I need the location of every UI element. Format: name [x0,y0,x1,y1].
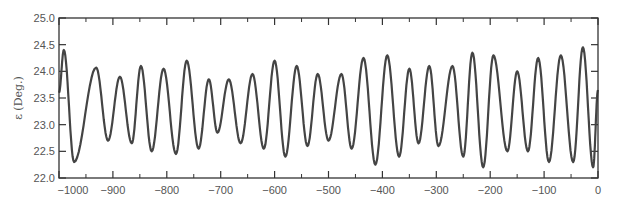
obliquity-curve [59,47,598,167]
y-axis-label: ε (Deg.) [12,76,25,120]
x-tick-label: −400 [370,184,395,196]
obliquity-chart: 22.022.523.023.524.024.525.0 −1000−900−8… [0,0,620,203]
y-tick-label: 24.5 [34,39,55,51]
x-tick-label: −500 [316,184,341,196]
x-tick-label: −700 [208,184,233,196]
x-tick-label: 0 [595,184,601,196]
x-tick-label: −300 [424,184,449,196]
x-tick-label: −200 [478,184,503,196]
x-tick-label: −800 [154,184,179,196]
plot-frame [59,18,598,178]
axis-ticks [59,18,598,178]
x-tick-labels: −1000−900−800−700−600−500−400−300−200−10… [58,184,602,196]
x-tick-label: −900 [101,184,126,196]
x-tick-label: −1000 [58,184,89,196]
y-tick-labels: 22.022.523.023.524.024.525.0 [34,12,55,184]
x-tick-label: −100 [532,184,557,196]
y-tick-label: 22.5 [34,145,55,157]
x-tick-label: −600 [262,184,287,196]
y-tick-label: 22.0 [34,172,55,184]
y-tick-label: 23.0 [34,119,55,131]
y-tick-label: 23.5 [34,92,55,104]
y-tick-label: 25.0 [34,12,55,24]
y-tick-label: 24.0 [34,65,55,77]
